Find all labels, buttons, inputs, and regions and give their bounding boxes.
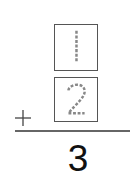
operator-label: + [0,0,1,1]
dotted-digit-two-icon [55,78,97,121]
sum-rule-divider [15,130,130,132]
dotted-digit-one-icon [55,25,97,70]
addend-top-box[interactable]: 1 [54,24,98,71]
plus-icon [15,110,31,126]
addend-bottom-box[interactable]: 2 [54,77,98,122]
answer-value: 3 [62,139,94,179]
